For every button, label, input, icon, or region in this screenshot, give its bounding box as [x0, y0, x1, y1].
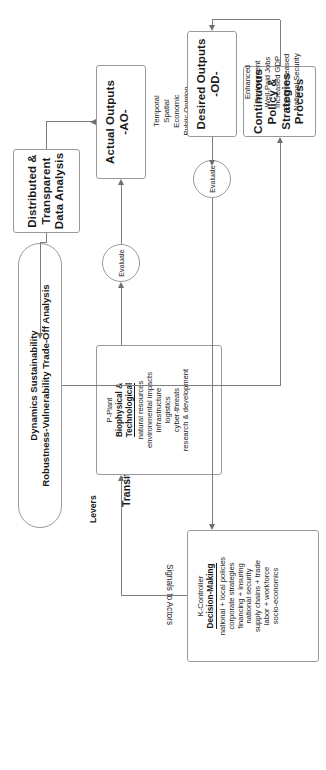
desired-outputs-box[interactable]: Desired Outputs -OD- [187, 31, 237, 137]
connector-policy-to-desired-riser [212, 19, 280, 20]
data-analysis-line-1: Distributed & [26, 154, 40, 228]
k-controller-tag: K-Controller [197, 576, 206, 617]
arrowhead-plant-to-evaluate [118, 282, 124, 288]
actual-outputs-box[interactable]: Actual Outputs -AO- [96, 65, 146, 179]
distributed-transparent-data-analysis-box[interactable]: Distributed & Transparent Data Analysis [13, 149, 80, 233]
connector-evaluate-to-actual-outputs [121, 185, 122, 244]
desired-outputs-code: -OD- [209, 71, 223, 96]
arrowhead-into-capsule [37, 333, 43, 339]
actual-outputs-item: Spatial [162, 99, 172, 122]
desired-outputs-item: Equity Increased [282, 54, 292, 111]
desired-outputs-list: Enhanced Environment Well-Paid Jobs Incr… [243, 34, 302, 130]
actual-outputs-item: Economic [172, 94, 182, 127]
arrowhead-evaluate-to-controller [209, 524, 215, 530]
actual-outputs-title: Actual Outputs [104, 80, 118, 164]
arrowhead-actual-outputs-up [90, 120, 96, 126]
k-controller-list: national + local policies corporate stra… [219, 557, 282, 635]
arrowhead-into-policy-process [277, 137, 283, 143]
p-plant-title-line-1: Biophysical & [115, 383, 125, 437]
desired-outputs-item: National Security [292, 53, 302, 110]
k-controller-title: Decision-Making [206, 563, 217, 628]
connector-actual-outputs-to-data-analysis [46, 122, 47, 149]
data-analysis-line-3: Data Analysis [53, 153, 67, 229]
connector-plant-to-evaluate [121, 288, 122, 345]
p-plant-list: natural resources environmental impacts … [137, 369, 191, 451]
desired-outputs-item: Well-Paid Jobs [263, 57, 273, 108]
connector-to-capsule [40, 243, 41, 333]
connector-capsule-to-policy-horizontal [280, 143, 281, 386]
arrowhead-to-plant [118, 475, 124, 481]
actual-outputs-item: Temporal [152, 95, 162, 126]
connector-desired-to-evaluate [212, 137, 213, 160]
arrowhead-into-desired-outputs [209, 25, 215, 31]
evaluate-node-upper[interactable]: Evaluate [102, 244, 140, 282]
p-plant-item: research & development [182, 369, 191, 451]
connector-capsule-to-policy-vertical [62, 385, 280, 386]
evaluate-upper-label: Evaluate [118, 249, 125, 276]
connector-actual-outputs-vertical [46, 121, 96, 122]
desired-outputs-item: Environment [253, 61, 263, 104]
p-plant-tag: P-Plant [106, 398, 115, 423]
data-analysis-line-2: Transparent [40, 158, 54, 225]
levers-edge-label: Levers [88, 495, 98, 523]
evaluate-lower-label: Evaluate [209, 165, 216, 192]
actual-outputs-code: -AO- [118, 109, 132, 134]
flowchart-canvas: Transition to a Net-Zero-Carbon Economy … [0, 0, 326, 770]
connector-data-analysis-to-capsule [46, 233, 47, 243]
k-controller-box[interactable]: K-Controller Decision-Making national + … [187, 530, 319, 662]
connector-controller-to-plant-horizontal [121, 481, 122, 596]
connector-controller-to-plant-vertical [121, 595, 187, 596]
arrowhead-evaluate-to-actual-outputs [118, 179, 124, 185]
connector-policy-to-desired-stub [280, 20, 281, 66]
p-plant-box[interactable]: P-Plant Biophysical & Technological natu… [96, 345, 222, 475]
k-controller-item: socio-economics [272, 568, 281, 625]
desired-outputs-title: Desired Outputs [195, 39, 209, 130]
arrowhead-desired-to-evaluate [209, 160, 215, 166]
p-plant-title-line-2: Technological [125, 383, 136, 437]
connector-evaluate-to-controller [212, 198, 213, 524]
desired-outputs-item: Enhanced [243, 65, 253, 99]
